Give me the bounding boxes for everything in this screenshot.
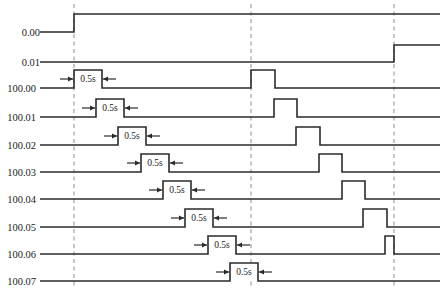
signal-label-100-07: 100.07 [7,276,36,287]
duration-arrowhead-right [214,215,219,220]
duration-arrowhead-left [224,269,229,274]
signal-trace-100-05 [40,209,440,227]
signal-trace-100-03 [40,154,440,172]
duration-label: 0.5s [124,131,140,141]
duration-arrowhead-right [125,105,130,110]
timing-diagram-canvas: 0.5s0.5s0.5s0.5s0.5s0.5s0.5s0.5s 0.000.0… [0,0,444,292]
duration-label: 0.5s [169,185,185,195]
duration-arrowhead-left [68,76,73,81]
signal-label-0-00: 0.00 [22,27,40,38]
signal-trace-0-00 [40,14,440,32]
signal-trace-100-04 [40,181,440,199]
duration-label: 0.5s [80,74,96,84]
signal-trace-100-02 [40,127,440,145]
duration-label: 0.5s [236,267,252,277]
duration-arrowhead-right [192,187,197,192]
timing-diagram: 0.5s0.5s0.5s0.5s0.5s0.5s0.5s0.5s 0.000.0… [0,0,444,292]
duration-arrowhead-left [179,215,184,220]
duration-label: 0.5s [102,103,118,113]
duration-arrowhead-left [202,242,207,247]
duration-arrowhead-right [103,76,108,81]
signal-label-100-03: 100.03 [7,167,36,178]
signal-labels-group: 0.000.01100.00100.01100.02100.03100.0410… [7,27,40,287]
duration-label: 0.5s [214,240,230,250]
duration-arrowhead-right [147,133,152,138]
duration-arrowhead-left [90,105,95,110]
duration-arrowhead-left [112,133,117,138]
duration-arrowhead-right [237,242,242,247]
duration-label: 0.5s [191,213,207,223]
signal-label-100-02: 100.02 [7,140,36,151]
duration-arrowhead-right [170,160,175,165]
duration-arrowhead-right [259,269,264,274]
duration-arrowhead-left [157,187,162,192]
duration-annotations-group: 0.5s0.5s0.5s0.5s0.5s0.5s0.5s0.5s [60,73,272,278]
signal-label-0-01: 0.01 [22,57,40,68]
signal-label-100-06: 100.06 [7,249,36,260]
signal-label-100-01: 100.01 [7,112,36,123]
duration-arrowhead-left [135,160,140,165]
signal-label-100-05: 100.05 [7,222,36,233]
signal-label-100-04: 100.04 [7,194,37,205]
duration-label: 0.5s [147,158,163,168]
signal-traces-group [40,14,440,281]
signal-label-100-00: 100.00 [7,83,36,94]
signal-trace-0-01 [40,45,440,62]
